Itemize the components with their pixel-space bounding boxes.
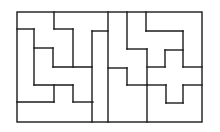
tiling-diagram <box>0 0 220 132</box>
piece-borders <box>17 12 202 122</box>
puzzle-grid <box>0 0 220 132</box>
outer-frame <box>17 12 202 122</box>
